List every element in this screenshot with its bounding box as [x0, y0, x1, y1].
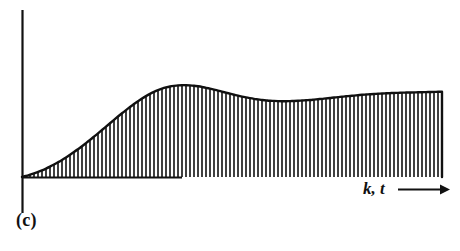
- panel-label: (c): [16, 211, 37, 229]
- figure-container: k, t (c): [0, 0, 460, 251]
- stem-plot-svg: [0, 0, 460, 251]
- x-axis-label: k, t: [363, 180, 385, 197]
